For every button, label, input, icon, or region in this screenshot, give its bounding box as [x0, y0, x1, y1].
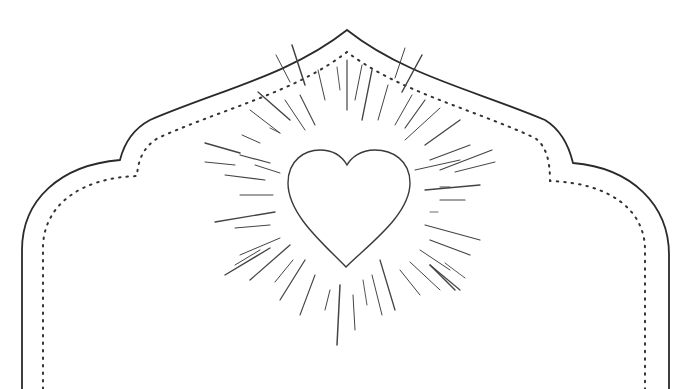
- outer-frame: [22, 30, 669, 389]
- sunburst-rays: [205, 45, 495, 345]
- heart: [288, 150, 410, 267]
- decorative-frame-illustration: [0, 0, 684, 389]
- inner-dotted-frame: [43, 52, 645, 389]
